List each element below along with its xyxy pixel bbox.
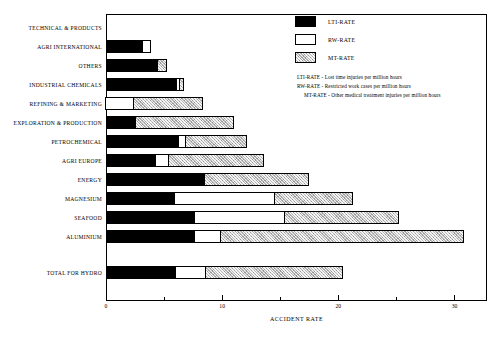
x-axis-tick-label: 0 bbox=[105, 303, 108, 309]
bar-segment-mt bbox=[205, 266, 343, 279]
y-axis-label: PETROCHEMICAL bbox=[0, 138, 102, 146]
x-axis-title: ACCIDENT RATE bbox=[106, 316, 487, 322]
y-axis-label: OTHERS bbox=[0, 62, 102, 70]
legend-note-rw: RW-RATE - Restricted work cases per mill… bbox=[297, 82, 441, 91]
bar-row bbox=[106, 59, 167, 72]
y-axis-label: TOTAL FOR HYDRO bbox=[0, 269, 102, 277]
bar-segment-lti bbox=[106, 59, 158, 72]
y-axis-label: ENERGY bbox=[0, 176, 102, 184]
bar-row bbox=[106, 135, 247, 148]
bar-segment-rw bbox=[194, 211, 285, 224]
y-axis-label: MAGNESIUM bbox=[0, 195, 102, 203]
x-axis-tick bbox=[338, 295, 339, 301]
bar-segment-mt bbox=[168, 154, 264, 167]
bar-segment-lti bbox=[106, 266, 176, 279]
bar-row bbox=[106, 192, 353, 205]
x-axis: 0102030 bbox=[106, 301, 487, 302]
legend-label-mt: MT-RATE bbox=[328, 55, 355, 61]
legend-note-lti: LTI-RATE - Lost time injuries per millio… bbox=[297, 73, 441, 82]
bar-segment-rw bbox=[194, 230, 221, 243]
bar-row bbox=[106, 230, 464, 243]
y-axis-label: EXPLORATION & PRODUCTION bbox=[0, 119, 102, 127]
x-axis-tick bbox=[106, 295, 107, 301]
y-axis-label: REFINING & MARKETING bbox=[0, 100, 102, 108]
bar-segment-mt bbox=[284, 211, 399, 224]
legend-swatch-rw-icon bbox=[295, 34, 316, 45]
bar-segment-lti bbox=[106, 40, 143, 53]
legend-item-rw: RW-RATE bbox=[295, 34, 355, 45]
legend-swatch-mt-icon bbox=[295, 52, 316, 63]
y-axis-label: AGRI EUROPE bbox=[0, 157, 102, 165]
y-axis-label: AGRI INTERNATIONAL bbox=[0, 43, 102, 51]
x-axis-tick-label: 30 bbox=[452, 303, 458, 309]
bar-segment-rw bbox=[174, 192, 275, 205]
bar-segment-lti bbox=[106, 211, 195, 224]
bar-segment-mt bbox=[204, 173, 310, 186]
x-axis-minor-tick bbox=[396, 297, 397, 301]
bar-segment-mt bbox=[220, 230, 464, 243]
x-axis-minor-tick bbox=[164, 297, 165, 301]
bar-segment-lti bbox=[106, 230, 195, 243]
bar-row bbox=[106, 211, 399, 224]
bar-segment-mt bbox=[157, 59, 166, 72]
legend-note-mt: MT-RATE - Other medical treatment injuri… bbox=[297, 91, 441, 100]
bar-segment-mt bbox=[133, 97, 203, 110]
chart-container: TECHNICAL & PRODUCTSAGRI INTERNATIONALOT… bbox=[0, 0, 494, 337]
bar-row bbox=[106, 154, 264, 167]
bar-row bbox=[106, 116, 234, 129]
legend-label-lti: LTI-RATE bbox=[328, 19, 355, 25]
legend-label-rw: RW-RATE bbox=[328, 37, 355, 43]
bar-segment-mt bbox=[274, 192, 353, 205]
bar-segment-rw bbox=[105, 97, 134, 110]
bar-row bbox=[106, 40, 151, 53]
x-axis-tick-label: 10 bbox=[219, 303, 225, 309]
y-axis-label: ALUMINIUM bbox=[0, 233, 102, 241]
y-axis-label: TECHNICAL & PRODUCTS bbox=[0, 24, 102, 32]
y-axis-label: INDUSTRIAL CHEMICALS bbox=[0, 81, 102, 89]
legend-notes: LTI-RATE - Lost time injuries per millio… bbox=[297, 73, 441, 101]
legend-item-mt: MT-RATE bbox=[295, 52, 355, 63]
x-axis-minor-tick bbox=[280, 297, 281, 301]
bar-segment-mt bbox=[185, 135, 247, 148]
bar-segment-lti bbox=[106, 116, 136, 129]
x-axis-tick bbox=[454, 295, 455, 301]
bar-row bbox=[106, 78, 184, 91]
y-axis-category-labels: TECHNICAL & PRODUCTSAGRI INTERNATIONALOT… bbox=[0, 14, 102, 301]
bar-segment-lti bbox=[106, 78, 177, 91]
legend-swatch-lti-icon bbox=[295, 16, 316, 27]
bar-row bbox=[106, 173, 309, 186]
bar-segment-rw bbox=[155, 154, 169, 167]
bar-segment-mt bbox=[135, 116, 234, 129]
x-axis-tick-label: 20 bbox=[336, 303, 342, 309]
bar-segment-lti bbox=[106, 135, 179, 148]
bar-segment-rw bbox=[175, 266, 206, 279]
legend-item-lti: LTI-RATE bbox=[295, 16, 355, 27]
bar-segment-lti bbox=[106, 154, 156, 167]
x-axis-tick bbox=[222, 295, 223, 301]
y-axis-label: SEAFOOD bbox=[0, 214, 102, 222]
bar-row bbox=[106, 97, 203, 110]
bar-segment-lti bbox=[106, 192, 175, 205]
legend: LTI-RATE RW-RATE MT-RATE bbox=[295, 16, 355, 70]
bar-segment-rw bbox=[142, 40, 151, 53]
bar-segment-mt bbox=[179, 78, 184, 91]
bar-row bbox=[106, 266, 343, 279]
bar-segment-lti bbox=[106, 173, 205, 186]
